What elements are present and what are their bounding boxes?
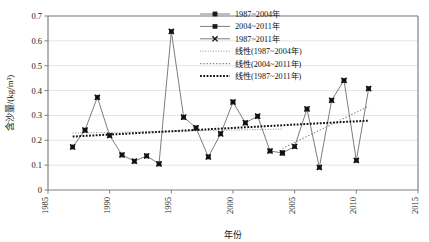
y-axis-tick-label: 0.6 xyxy=(31,36,42,46)
y-axis-tick-label: 0.4 xyxy=(31,86,42,96)
sediment-concentration-chart: 00.10.20.30.40.50.60.7198519901995200020… xyxy=(0,0,429,242)
y-axis-tick-label: 0 xyxy=(38,185,42,195)
legend-sample-marker xyxy=(213,24,217,28)
y-axis-tick-label: 0.2 xyxy=(31,135,42,145)
legend-item-label: 线性(1987~2004年) xyxy=(235,46,302,56)
x-axis-tick-label: 2010 xyxy=(348,197,358,214)
trendline xyxy=(282,106,368,148)
x-axis-tick-label: 2005 xyxy=(287,197,297,214)
legend-item-label: 1987~2011年 xyxy=(235,34,280,44)
legend-item-label: 线性(2004~2011年) xyxy=(235,59,302,69)
x-axis-tick-label: 1990 xyxy=(102,197,112,214)
y-axis-tick-label: 0.7 xyxy=(31,11,42,21)
x-axis-tick-label: 1995 xyxy=(163,197,173,214)
y-axis-tick-label: 0.5 xyxy=(31,61,42,71)
y-axis-title: 含沙量/(kg/m³) xyxy=(4,75,15,132)
y-axis-tick-label: 0.3 xyxy=(31,110,42,120)
legend-item-label: 线性(1987~2011年) xyxy=(235,71,302,81)
y-axis-tick-label: 0.1 xyxy=(31,160,42,170)
legend-sample-marker xyxy=(213,12,217,16)
x-axis-tick-label: 2000 xyxy=(225,197,235,214)
trendline xyxy=(73,129,283,133)
x-axis-title: 年份 xyxy=(224,229,242,240)
x-axis-tick-label: 2015 xyxy=(410,197,420,214)
x-axis-tick-label: 1985 xyxy=(40,197,50,214)
legend-item-label: 2004~2011年 xyxy=(235,21,280,31)
chart-canvas: 00.10.20.30.40.50.60.7198519901995200020… xyxy=(0,0,429,242)
series-line xyxy=(282,80,368,167)
legend-item-label: 1987~2004年 xyxy=(235,9,280,19)
